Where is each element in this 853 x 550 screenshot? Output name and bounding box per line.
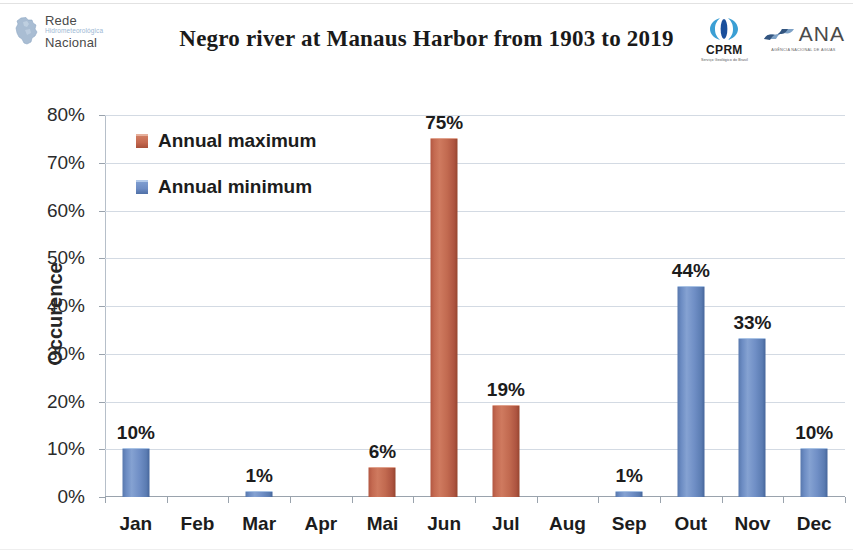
cprm-logo: CPRM Serviço Geológico do Brasil [701, 16, 748, 62]
x-axis-tick-label-feb: Feb [181, 513, 215, 535]
legend-swatch-icon [136, 180, 148, 194]
bar-slot: 75% [413, 115, 475, 497]
chart-container: Occurence 0%10%20%30%40%50%60%70%80% 10%… [0, 78, 853, 550]
bar-value-label: 10% [117, 422, 155, 444]
x-axis-tick-mark [352, 497, 353, 503]
y-axis-tick-label: 50% [21, 247, 85, 269]
bar-value-label: 19% [487, 379, 525, 401]
chart-bar[interactable] [492, 405, 519, 497]
x-axis-tick-label-apr: Apr [304, 513, 337, 535]
bar-slot: 1% [598, 115, 660, 497]
bar-slot: 6% [352, 115, 414, 497]
bar-slot [537, 115, 599, 497]
x-axis-tick-label-sep: Sep [612, 513, 647, 535]
y-axis-tick-label: 60% [21, 200, 85, 222]
x-axis-tick-mark [845, 497, 846, 503]
x-axis-tick-mark [660, 497, 661, 503]
chart-bar[interactable] [246, 491, 273, 497]
x-axis-tick-mark [290, 497, 291, 503]
legend-item-label: Annual maximum [158, 130, 316, 152]
legend-item-max[interactable]: Annual maximum [136, 130, 316, 152]
bar-value-label: 1% [615, 465, 642, 487]
ana-wave-icon [762, 23, 796, 45]
x-axis-tick-mark [783, 497, 784, 503]
x-axis-tick-label-dec: Dec [797, 513, 832, 535]
x-axis-tick-mark [105, 497, 106, 503]
bar-slot: 19% [475, 115, 537, 497]
y-axis-tick-label: 20% [21, 391, 85, 413]
cprm-bracket-icon [707, 16, 741, 42]
y-axis-tick-label: 30% [21, 343, 85, 365]
chart-legend: Annual maximumAnnual minimum [136, 130, 316, 222]
chart-bar[interactable] [801, 448, 828, 497]
legend-swatch-icon [136, 134, 148, 148]
x-axis-tick-label-jul: Jul [492, 513, 519, 535]
cprm-logo-name: CPRM [706, 43, 743, 57]
x-axis-tick-label-jun: Jun [427, 513, 461, 535]
bar-slot: 44% [660, 115, 722, 497]
bar-slot: 10% [783, 115, 845, 497]
x-axis-tick-mark [167, 497, 168, 503]
bar-value-label: 1% [245, 465, 272, 487]
x-axis-tick-mark [598, 497, 599, 503]
x-axis-tick-label-out: Out [674, 513, 707, 535]
ana-logo-row: ANA [762, 22, 845, 46]
x-axis-tick-mark [722, 497, 723, 503]
cprm-logo-subtitle: Serviço Geológico do Brasil [701, 58, 748, 62]
x-axis-tick-label-nov: Nov [735, 513, 771, 535]
chart-bar[interactable] [616, 491, 643, 497]
chart-bar[interactable] [677, 286, 704, 497]
x-axis-tick-label-aug: Aug [549, 513, 586, 535]
bar-value-label: 44% [672, 260, 710, 282]
ana-logo: ANA AGÊNCIA NACIONAL DE ÁGUAS [762, 16, 845, 52]
y-axis-tick-label: 0% [21, 486, 85, 508]
bar-value-label: 33% [733, 312, 771, 334]
legend-item-min[interactable]: Annual minimum [136, 176, 316, 198]
x-axis-tick-mark [413, 497, 414, 503]
chart-header: Rede Hidrometeorológica Nacional Negro r… [0, 0, 853, 78]
chart-bar[interactable] [369, 467, 396, 497]
partner-logos: CPRM Serviço Geológico do Brasil ANA AGÊ… [701, 16, 845, 62]
bar-value-label: 75% [425, 112, 463, 134]
x-axis-tick-label-jan: Jan [119, 513, 152, 535]
chart-bar[interactable] [739, 338, 766, 497]
ana-logo-subtitle: AGÊNCIA NACIONAL DE ÁGUAS [771, 48, 835, 52]
bar-slot: 33% [722, 115, 784, 497]
bar-value-label: 6% [369, 441, 396, 463]
y-axis-tick-label: 80% [21, 104, 85, 126]
x-axis-tick-mark [537, 497, 538, 503]
x-axis-tick-label-mar: Mar [242, 513, 276, 535]
y-axis-tick-label: 70% [21, 152, 85, 174]
chart-bar[interactable] [431, 138, 458, 497]
x-axis-tick-mark [228, 497, 229, 503]
x-axis-tick-label-mai: Mai [367, 513, 399, 535]
y-axis-tick-label: 10% [21, 438, 85, 460]
bar-value-label: 10% [795, 422, 833, 444]
ana-logo-name: ANA [799, 22, 845, 46]
y-axis-tick-label: 40% [21, 295, 85, 317]
x-axis-tick-mark [475, 497, 476, 503]
legend-item-label: Annual minimum [158, 176, 312, 198]
chart-bar[interactable] [122, 448, 149, 497]
